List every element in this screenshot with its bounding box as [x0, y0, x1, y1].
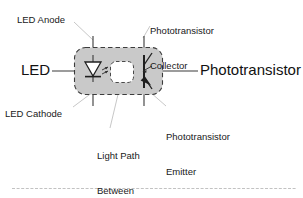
diagram-canvas: LED Anode Phototransistor Collector LED … [0, 0, 303, 198]
leader-led-anode [74, 22, 93, 40]
label-led: LED [21, 62, 50, 78]
label-phototransistor: Phototransistor [200, 62, 301, 78]
label-light-path-line1: Light Path [97, 150, 161, 162]
label-light-path-line2: Between [97, 185, 161, 197]
label-phototransistor-collector-line1: Phototransistor [150, 25, 214, 37]
label-led-cathode: LED Cathode [5, 108, 62, 120]
light-path-region [111, 62, 134, 83]
label-light-path: Light Path Between LED and Phototransist… [97, 127, 161, 198]
label-phototransistor-collector: Phototransistor Collector [150, 2, 214, 94]
label-phototransistor-emitter-line1: Phototransistor [166, 131, 230, 143]
label-phototransistor-emitter-line2: Emitter [166, 166, 230, 178]
label-led-anode: LED Anode [17, 14, 65, 26]
label-phototransistor-emitter: Phototransistor Emitter [166, 108, 230, 198]
